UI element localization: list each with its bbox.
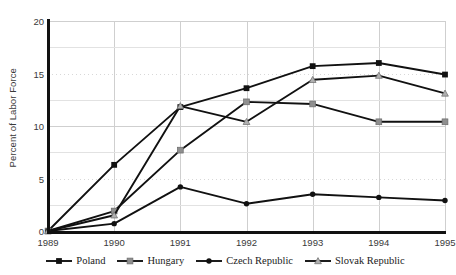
- series-czech-republic: [45, 184, 447, 234]
- data-point: [310, 101, 316, 107]
- x-tick-label: 1989: [37, 237, 58, 248]
- chart-legend: PolandHungaryCzech RepublicSlovak Republ…: [0, 255, 450, 266]
- data-point: [178, 184, 183, 189]
- x-tick-label: 1990: [104, 237, 125, 248]
- legend-item-label: Czech Republic: [226, 255, 293, 266]
- series-layer: [48, 21, 445, 231]
- data-point: [442, 72, 448, 78]
- y-tick-label: 5: [22, 173, 44, 184]
- legend-item-label: Slovak Republic: [335, 255, 405, 266]
- legend-marker-icon: [116, 256, 144, 266]
- data-point: [177, 147, 183, 153]
- series-slovak-republic: [45, 72, 449, 234]
- data-point: [442, 198, 447, 203]
- y-tick-label: 0: [22, 226, 44, 237]
- y-tick-label: 15: [22, 68, 44, 79]
- legend-item-poland[interactable]: Poland: [45, 255, 105, 266]
- x-axis-line: [47, 231, 446, 234]
- series-poland: [45, 60, 448, 234]
- series-line: [48, 187, 445, 231]
- data-point: [111, 221, 116, 226]
- x-tick-label: 1992: [236, 237, 257, 248]
- y-tick-label: 10: [22, 121, 44, 132]
- legend-marker-icon: [195, 256, 223, 266]
- x-axis-tick-labels: 1989199019911992199319941995: [48, 237, 445, 251]
- legend-item-slovak-republic[interactable]: Slovak Republic: [304, 255, 405, 266]
- x-tick-label: 1994: [368, 237, 389, 248]
- data-point: [376, 60, 382, 66]
- data-point: [376, 195, 381, 200]
- legend-item-czech-republic[interactable]: Czech Republic: [195, 255, 293, 266]
- plot-area: [48, 21, 445, 231]
- y-axis-title-label: Percent of Labor Force: [7, 68, 18, 167]
- data-point: [310, 192, 315, 197]
- data-point: [376, 119, 382, 125]
- legend-marker-icon: [45, 256, 73, 266]
- legend-item-label: Poland: [76, 255, 105, 266]
- data-point: [244, 85, 250, 91]
- data-point: [442, 119, 448, 125]
- data-point: [310, 63, 316, 69]
- data-point: [244, 99, 250, 105]
- y-axis-line: [47, 19, 50, 233]
- y-axis-tick-labels: 05101520: [18, 21, 44, 231]
- y-tick-label: 20: [22, 16, 44, 27]
- x-tick-label: 1995: [434, 237, 455, 248]
- legend-marker-icon: [304, 256, 332, 266]
- data-point: [244, 201, 249, 206]
- x-tick-label: 1993: [302, 237, 323, 248]
- legend-item-label: Hungary: [147, 255, 184, 266]
- legend-item-hungary[interactable]: Hungary: [116, 255, 184, 266]
- x-tick-label: 1991: [170, 237, 191, 248]
- data-point: [111, 162, 117, 168]
